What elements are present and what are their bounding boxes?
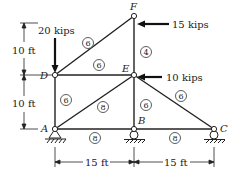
node-label-A: A: [40, 123, 48, 134]
node-C: [211, 126, 216, 131]
svg-text:6: 6: [96, 61, 101, 70]
node-label-D: D: [39, 70, 48, 81]
dim-horizontal-left: 15 ft: [85, 157, 109, 168]
svg-text:6: 6: [143, 101, 148, 110]
svg-text:8: 8: [92, 134, 97, 143]
member-value-AD: 6: [61, 95, 72, 106]
node-D: [52, 72, 57, 77]
svg-text:8: 8: [172, 134, 177, 143]
truss-diagram: 6 6 6 4 8 6 6 8 8: [0, 0, 238, 178]
svg-text:6: 6: [85, 39, 90, 48]
load-F: 15 kips: [137, 19, 209, 30]
member-value-DE: 6: [94, 60, 105, 71]
load-D: 20 kips: [38, 25, 75, 73]
horizontal-dimensions: [55, 147, 214, 167]
member-value-DF: 6: [83, 38, 94, 49]
member-value-AB: 8: [90, 133, 101, 144]
member-value-EC: 6: [176, 91, 187, 102]
member-values: 6 6 6 4 8 6 6 8 8: [61, 38, 187, 144]
member-value-AE: 8: [98, 102, 109, 113]
svg-text:10 kips: 10 kips: [166, 72, 203, 83]
svg-text:8: 8: [100, 103, 105, 112]
dim-vertical-bottom: 10 ft: [12, 98, 36, 109]
node-B: [131, 126, 136, 131]
dim-horizontal-right: 15 ft: [164, 157, 188, 168]
node-A: [52, 126, 57, 131]
member-value-EB: 6: [141, 100, 152, 111]
node-label-B: B: [137, 115, 145, 126]
svg-text:15 kips: 15 kips: [172, 19, 209, 30]
svg-text:4: 4: [143, 48, 148, 57]
node-F: [131, 13, 136, 18]
node-label-F: F: [129, 1, 138, 12]
node-label-C: C: [220, 123, 228, 134]
dim-vertical-top: 10 ft: [12, 45, 36, 56]
node-label-E: E: [121, 63, 130, 74]
roller-support-B-icon: [124, 131, 145, 143]
load-E: 10 kips: [137, 72, 203, 83]
member-value-BC: 8: [170, 133, 181, 144]
svg-text:6: 6: [63, 96, 68, 105]
svg-text:6: 6: [178, 92, 183, 101]
node-E: [131, 72, 136, 77]
svg-text:20 kips: 20 kips: [38, 25, 75, 36]
member-value-FE: 4: [141, 47, 152, 58]
